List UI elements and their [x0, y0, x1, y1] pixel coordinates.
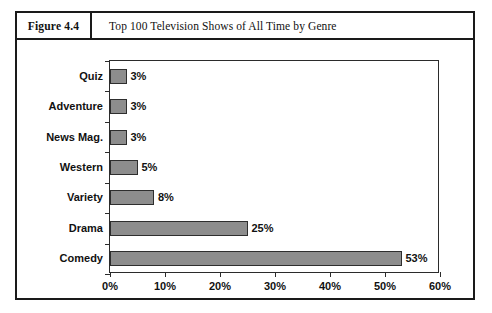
x-axis-tick-label: 30% — [264, 281, 286, 292]
bar-row: Quiz3% — [110, 68, 438, 84]
x-axis-tick — [275, 272, 276, 277]
figure-caption-bar: Figure 4.4 Top 100 Television Shows of A… — [17, 13, 473, 40]
bar-value-label: 5% — [142, 162, 158, 173]
y-axis-tick — [105, 152, 110, 153]
category-label: News Mag. — [46, 132, 103, 143]
figure-container: Figure 4.4 Top 100 Television Shows of A… — [15, 11, 475, 300]
y-axis-tick — [105, 244, 110, 245]
bar-row: News Mag.3% — [110, 129, 438, 145]
x-axis-tick-label: 0% — [102, 281, 118, 292]
x-axis-tick — [330, 272, 331, 277]
x-axis-tick-label: 60% — [429, 281, 451, 292]
bar-row: Comedy53% — [110, 251, 438, 267]
category-label: Adventure — [49, 101, 103, 112]
bar — [110, 221, 248, 236]
x-axis-tick-label: 20% — [209, 281, 231, 292]
category-label: Western — [60, 162, 103, 173]
bar-value-label: 25% — [252, 223, 274, 234]
plot-frame: Comedy53%Drama25%Variety8%Western5%News … — [109, 60, 439, 273]
category-label: Drama — [69, 223, 103, 234]
x-axis-tick — [110, 272, 111, 277]
bar — [110, 69, 127, 84]
bar — [110, 99, 127, 114]
y-axis-tick — [105, 91, 110, 92]
bar-row: Variety8% — [110, 190, 438, 206]
bar-value-label: 3% — [131, 101, 147, 112]
x-axis-tick-label: 40% — [319, 281, 341, 292]
category-label: Variety — [67, 192, 103, 203]
bar — [110, 190, 154, 205]
category-label: Comedy — [60, 253, 103, 264]
bar-row: Drama25% — [110, 220, 438, 236]
bar-row: Adventure3% — [110, 99, 438, 115]
x-axis-tick-label: 10% — [154, 281, 176, 292]
bar — [110, 130, 127, 145]
x-axis-tick — [220, 272, 221, 277]
x-axis-tick — [165, 272, 166, 277]
category-label: Quiz — [79, 71, 103, 82]
bar-value-label: 3% — [131, 132, 147, 143]
bar-value-label: 3% — [131, 71, 147, 82]
y-axis-tick — [105, 183, 110, 184]
bar — [110, 160, 138, 175]
bar-row: Western5% — [110, 160, 438, 176]
bar-value-label: 53% — [406, 253, 428, 264]
y-axis-tick — [105, 213, 110, 214]
y-axis-tick — [105, 61, 110, 62]
x-axis-tick — [385, 272, 386, 277]
bar-value-label: 8% — [158, 192, 174, 203]
chart-area: Comedy53%Drama25%Variety8%Western5%News … — [17, 40, 473, 298]
y-axis-tick — [105, 122, 110, 123]
x-axis-tick — [440, 272, 441, 277]
x-axis-tick-label: 50% — [374, 281, 396, 292]
figure-title: Top 100 Television Shows of All Time by … — [92, 20, 337, 32]
bar — [110, 251, 402, 266]
figure-number-label: Figure 4.4 — [17, 20, 90, 32]
